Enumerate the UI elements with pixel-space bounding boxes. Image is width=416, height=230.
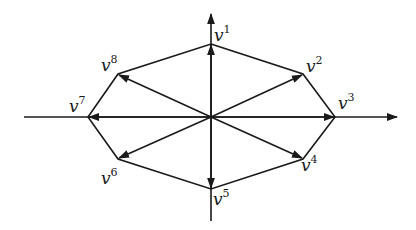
label-v1: v1 — [214, 23, 231, 45]
label-v3: v3 — [338, 91, 355, 113]
label-v4: v4 — [301, 153, 318, 175]
label-v2: v2 — [306, 54, 323, 76]
vector-v2 — [211, 75, 302, 117]
vector-v4 — [211, 117, 302, 158]
octagon-vector-diagram: v1 v2 v3 v4 v5 v6 v7 v8 — [0, 0, 416, 230]
label-v7: v7 — [69, 94, 86, 116]
vector-v8 — [119, 75, 211, 117]
vector-v6 — [119, 117, 211, 158]
label-v6: v6 — [101, 166, 118, 188]
label-v5: v5 — [213, 187, 230, 209]
vectors — [89, 45, 334, 188]
label-v8: v8 — [101, 53, 118, 75]
